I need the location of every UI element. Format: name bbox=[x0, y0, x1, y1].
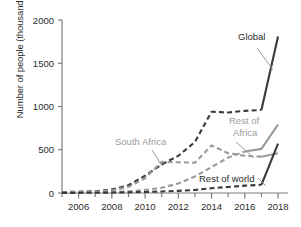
x-tick-label: 2006 bbox=[68, 201, 89, 212]
y-tick-label: 0 bbox=[49, 188, 54, 199]
annotation-leader-line bbox=[152, 150, 162, 166]
series-annotation-label: Global bbox=[238, 31, 265, 42]
x-tick-label: 2016 bbox=[234, 201, 255, 212]
series-line-estimate-south-africa bbox=[62, 145, 261, 192]
y-tick-label: 2000 bbox=[33, 15, 54, 26]
y-tick-label: 1000 bbox=[33, 101, 54, 112]
x-axis-ticks: 2006200820102012201420162018 bbox=[62, 193, 289, 212]
series-line-actual-global bbox=[261, 36, 278, 110]
series-annotation-label: South Africa bbox=[115, 136, 167, 147]
y-tick-label: 500 bbox=[38, 144, 54, 155]
x-tick-label: 2018 bbox=[267, 201, 288, 212]
x-tick-label: 2010 bbox=[135, 201, 156, 212]
series-annotations: GlobalRest ofAfricaSouth AfricaRest of w… bbox=[115, 31, 265, 184]
y-tick-label: 1500 bbox=[33, 58, 54, 69]
axes bbox=[62, 20, 288, 193]
x-tick-label: 2012 bbox=[168, 201, 189, 212]
series-annotation-label: Rest of world bbox=[199, 173, 254, 184]
series-line-actual-rest-of-world bbox=[261, 144, 278, 185]
series-annotation-label: Africa bbox=[233, 127, 258, 138]
series-annotation-label: Rest of bbox=[229, 115, 259, 126]
y-axis-ticks: 0500100015002000 bbox=[33, 15, 62, 199]
series-line-actual-south-africa bbox=[261, 153, 278, 156]
x-tick-label: 2014 bbox=[201, 201, 222, 212]
annotation-leader-line bbox=[257, 48, 273, 70]
chart-container: Number of people (thousands) 05001000150… bbox=[0, 0, 301, 227]
plot-area: 0500100015002000 20062008201020122014201… bbox=[0, 0, 301, 227]
x-tick-label: 2008 bbox=[101, 201, 122, 212]
